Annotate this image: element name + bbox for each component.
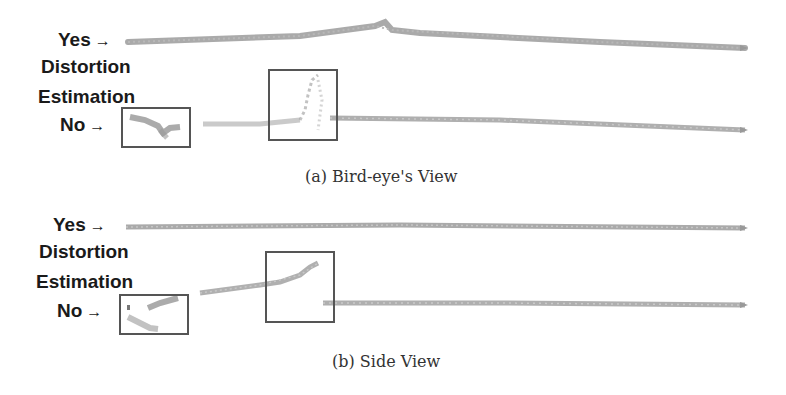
zoom-box-left-a (121, 107, 191, 148)
zoom-box-left-b (119, 294, 189, 335)
label-yes-b: Yes→ (53, 215, 106, 234)
arrow-right-icon: → (86, 303, 102, 320)
no-text: No (60, 114, 85, 135)
arrow-right-icon: → (90, 217, 106, 234)
trajectory-no-a (130, 75, 748, 138)
panel-bird-eye-view: Yes→ Distortion Estimation No→ (a) Bird-… (0, 0, 786, 195)
trajectory-yes-b (126, 225, 748, 231)
zoom-box-right-b (265, 251, 335, 323)
no-text: No (57, 300, 82, 321)
caption-b: (b) Side View (332, 352, 440, 371)
arrow-right-icon: → (89, 117, 105, 134)
label-estimation-b: Estimation (36, 272, 133, 291)
yes-text: Yes (58, 29, 91, 50)
yes-text: Yes (53, 214, 86, 235)
trajectory-yes-a (128, 22, 748, 51)
label-no-b: No→ (57, 301, 102, 320)
trajectory-no-b (127, 263, 748, 329)
caption-a: (a) Bird-eye's View (305, 167, 458, 186)
zoom-box-right-a (268, 69, 338, 141)
label-yes-a: Yes→ (58, 30, 111, 49)
label-no-a: No→ (60, 115, 105, 134)
label-distortion-b: Distortion (39, 242, 129, 261)
label-distortion-a: Distortion (41, 57, 131, 76)
panel-side-view: Yes→ Distortion Estimation No→ (b) Side … (0, 195, 786, 395)
label-estimation-a: Estimation (38, 87, 135, 106)
arrow-right-icon: → (95, 32, 111, 49)
